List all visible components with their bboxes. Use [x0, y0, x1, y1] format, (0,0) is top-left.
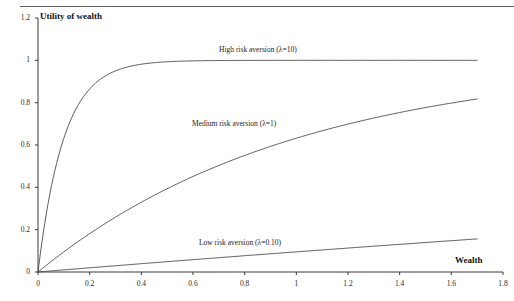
y-axis-title: Utility of wealth — [40, 11, 102, 21]
y-tick-label: 0.6 — [4, 140, 30, 149]
series-label-medium-risk: Medium risk aversion (λ=1) — [192, 119, 276, 128]
series-label-low-risk: Low risk aversion (λ=0.10) — [199, 238, 281, 247]
y-tick-label: 0.2 — [4, 225, 30, 234]
y-tick-label: 1.2 — [4, 13, 30, 22]
x-tick-label: 0 — [23, 279, 53, 288]
x-tick-label: 1.2 — [333, 279, 363, 288]
utility-of-wealth-figure: 00.20.40.60.811.2 00.20.40.60.811.21.41.… — [0, 0, 514, 301]
x-tick-label: 1.4 — [385, 279, 415, 288]
series-label-high-risk: High risk aversion (λ=10) — [219, 45, 297, 54]
x-tick-label: 1.6 — [436, 279, 466, 288]
x-tick-label: 0.6 — [178, 279, 208, 288]
x-tick-label: 0.4 — [126, 279, 156, 288]
x-tick-label: 1.8 — [488, 279, 514, 288]
y-tick-label: 0 — [4, 267, 30, 276]
y-tick-label: 0.8 — [4, 98, 30, 107]
x-axis-title: Wealth — [455, 255, 483, 265]
y-tick-label: 1 — [4, 55, 30, 64]
x-tick-label: 0.2 — [75, 279, 105, 288]
y-tick-label: 0.4 — [4, 182, 30, 191]
x-tick-label: 1 — [281, 279, 311, 288]
x-tick-label: 0.8 — [230, 279, 260, 288]
